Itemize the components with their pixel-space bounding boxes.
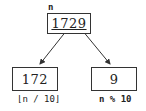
quotient-label: ⌊n / 10⌋ [17, 94, 60, 104]
arrow-to-remainder [82, 30, 110, 64]
root-label: n [48, 2, 53, 12]
remainder-node: 9 [91, 67, 137, 91]
arrow-to-quotient [40, 30, 67, 64]
quotient-node: 172 [12, 67, 58, 91]
remainder-label: n % 10 [99, 94, 132, 104]
quotient-value: 172 [22, 72, 48, 87]
root-value: 1729 [51, 16, 86, 31]
root-node: 1729 [47, 13, 91, 34]
remainder-value: 9 [110, 72, 118, 87]
